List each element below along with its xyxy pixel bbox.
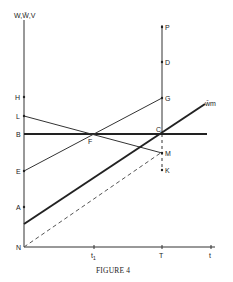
label-wm: w̄m [204,100,216,107]
label-t: t [209,252,211,259]
label-D: D [165,59,170,66]
point-M [161,152,163,154]
figure-4-diagram: W,W̄,V H L B E A N P D G C M K F w̄m t1 … [0,0,233,282]
label-A: A [16,204,21,211]
line-N-dashed [24,152,162,247]
point-G [161,97,163,99]
label-C: C [156,126,161,133]
label-H: H [15,94,20,101]
label-B: B [16,131,21,138]
label-L: L [16,113,20,120]
label-F: F [88,138,92,145]
label-P: P [165,24,170,31]
label-T: T [159,252,164,259]
y-axis-label: W,W̄,V [14,12,36,19]
label-t1: t1 [91,252,96,261]
label-M: M [165,150,171,157]
point-H [23,96,25,98]
label-E: E [16,168,21,175]
label-N: N [16,244,21,251]
point-L [23,115,25,117]
label-K: K [165,167,170,174]
point-K [161,169,163,171]
figure-caption: FIGURE 4 [96,266,130,275]
point-A [23,206,25,208]
point-D [161,61,163,63]
point-E [23,170,25,172]
label-G: G [165,95,170,102]
line-wm [24,104,205,224]
point-P [161,26,163,28]
